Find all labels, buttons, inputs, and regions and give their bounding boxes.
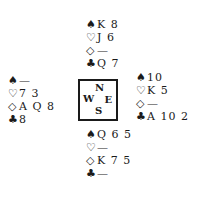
south-diamonds: ◇K 7 5 (86, 154, 132, 167)
heart-icon: ♡ (136, 84, 147, 97)
north-hand: ♠K 8 ♡J 6 ◇— ♣Q 7 (86, 18, 120, 70)
heart-icon: ♡ (86, 141, 97, 154)
spade-icon: ♠ (8, 74, 19, 87)
west-spades: ♠— (8, 74, 55, 87)
club-icon: ♣ (136, 110, 147, 123)
compass-west: W (83, 93, 94, 104)
east-diamonds: ◇— (136, 97, 189, 110)
west-hand: ♠— ♡7 3 ◇A Q 8 ♣8 (8, 74, 55, 126)
south-hand: ♠Q 6 5 ♡— ◇K 7 5 ♣— (86, 128, 132, 180)
compass-box: N W E S (78, 79, 118, 121)
compass-east: E (104, 94, 112, 105)
diamond-icon: ◇ (86, 154, 97, 167)
west-hearts: ♡7 3 (8, 87, 55, 100)
east-hand: ♠10 ♡K 5 ◇— ♣A 10 2 (136, 71, 189, 123)
east-spades: ♠10 (136, 71, 189, 84)
north-clubs: ♣Q 7 (86, 57, 120, 70)
heart-icon: ♡ (86, 31, 97, 44)
south-hearts: ♡— (86, 141, 132, 154)
spade-icon: ♠ (136, 71, 147, 84)
north-diamonds: ◇— (86, 44, 120, 57)
spade-icon: ♠ (86, 128, 97, 141)
club-icon: ♣ (86, 167, 97, 180)
club-icon: ♣ (86, 57, 97, 70)
diamond-icon: ◇ (136, 97, 147, 110)
east-hearts: ♡K 5 (136, 84, 189, 97)
diamond-icon: ◇ (86, 44, 97, 57)
west-diamonds: ◇A Q 8 (8, 100, 55, 113)
west-clubs: ♣8 (8, 113, 55, 126)
east-clubs: ♣A 10 2 (136, 110, 189, 123)
south-spades: ♠Q 6 5 (86, 128, 132, 141)
compass-south: S (95, 105, 102, 116)
south-clubs: ♣— (86, 167, 132, 180)
compass-north: N (95, 82, 104, 93)
club-icon: ♣ (8, 113, 19, 126)
spade-icon: ♠ (86, 18, 97, 31)
north-hearts: ♡J 6 (86, 31, 120, 44)
north-spades: ♠K 8 (86, 18, 120, 31)
heart-icon: ♡ (8, 87, 19, 100)
diamond-icon: ◇ (8, 100, 19, 113)
